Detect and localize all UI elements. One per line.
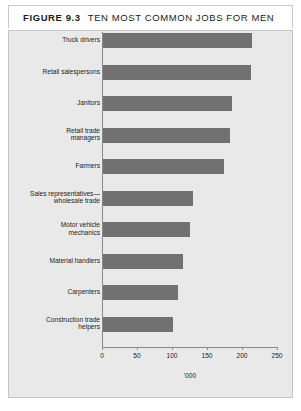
category-label: Retail salespersons xyxy=(8,68,100,76)
bar xyxy=(102,285,178,300)
category-label: Material handlers xyxy=(8,257,100,265)
x-axis-label: '000 xyxy=(102,372,278,379)
x-tick xyxy=(172,347,173,350)
x-tick-label: 0 xyxy=(100,352,104,359)
x-axis-line xyxy=(102,347,278,348)
bar xyxy=(102,317,173,332)
bar xyxy=(102,222,190,237)
category-label: Farmers xyxy=(8,162,100,170)
bar xyxy=(102,65,251,80)
x-tick-label: 50 xyxy=(133,352,140,359)
figure-title-band: FIGURE 9.3 TEN MOST COMMON JOBS FOR MEN xyxy=(8,5,293,28)
x-tick-label: 100 xyxy=(166,352,177,359)
x-tick xyxy=(277,347,278,350)
y-axis-line xyxy=(102,32,103,347)
x-tick xyxy=(102,347,103,350)
x-tick-label: 200 xyxy=(236,352,247,359)
category-label: Janitors xyxy=(8,99,100,107)
category-label: Construction tradehelpers xyxy=(8,316,100,331)
figure-number: FIGURE 9.3 xyxy=(23,12,81,23)
x-tick-label: 150 xyxy=(201,352,212,359)
figure-container: FIGURE 9.3 TEN MOST COMMON JOBS FOR MEN … xyxy=(0,0,301,411)
bar xyxy=(102,128,230,143)
bar xyxy=(102,33,252,48)
bar xyxy=(102,159,224,174)
category-label: Retail trademanagers xyxy=(8,127,100,142)
x-tick xyxy=(242,347,243,350)
bar xyxy=(102,254,183,269)
bar xyxy=(102,191,193,206)
category-label: Motor vehiclemechanics xyxy=(8,221,100,236)
x-tick-label: 250 xyxy=(271,352,282,359)
bar xyxy=(102,96,232,111)
category-label: Carpenters xyxy=(8,288,100,296)
category-label: Truck drivers xyxy=(8,36,100,44)
category-axis-labels: Truck driversRetail salespersonsJanitors… xyxy=(8,32,100,347)
category-label: Sales representatives—wholesale trade xyxy=(8,190,100,205)
plot-area xyxy=(102,32,277,347)
x-tick xyxy=(137,347,138,350)
figure-title: TEN MOST COMMON JOBS FOR MEN xyxy=(88,12,275,23)
x-tick xyxy=(207,347,208,350)
